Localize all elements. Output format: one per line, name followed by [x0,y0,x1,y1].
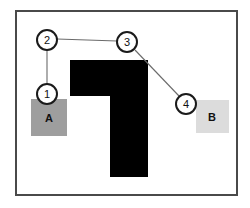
node-1-label: 1 [44,88,50,100]
node-4[interactable]: 4 [176,94,196,114]
node-1[interactable]: 1 [37,84,57,104]
diagram-canvas: 1 2 3 4 A B [0,0,250,208]
node-4-label: 4 [183,98,189,110]
node-3[interactable]: 3 [117,32,137,52]
node-3-label: 3 [124,36,130,48]
node-2[interactable]: 2 [37,30,57,50]
region-a-label: A [45,112,53,124]
path-planning-diagram: 1 2 3 4 A B [0,0,250,208]
region-b-label: B [208,111,216,123]
node-2-label: 2 [44,34,50,46]
